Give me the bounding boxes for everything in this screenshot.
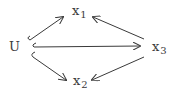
node-x2-label: x xyxy=(73,73,80,88)
node-x2-subscript: 2 xyxy=(81,79,87,90)
diagram-canvas: U x1 x2 x3 xyxy=(0,0,177,97)
edges-layer xyxy=(0,0,177,97)
edge-u-x3 xyxy=(33,43,140,47)
node-x2: x2 xyxy=(73,74,88,87)
node-x3: x3 xyxy=(152,40,167,53)
edge-u-x2 xyxy=(32,52,66,80)
node-u: U xyxy=(9,40,20,53)
edge-x3-x2 xyxy=(92,57,144,80)
node-x1-label: x xyxy=(72,3,79,18)
node-u-label: U xyxy=(9,39,20,54)
node-x3-label: x xyxy=(152,39,159,54)
node-x1: x1 xyxy=(72,4,87,17)
edge-x3-x1 xyxy=(93,17,144,39)
node-x3-subscript: 3 xyxy=(160,45,166,56)
edge-u-x1 xyxy=(28,17,63,40)
node-x1-subscript: 1 xyxy=(80,9,86,20)
